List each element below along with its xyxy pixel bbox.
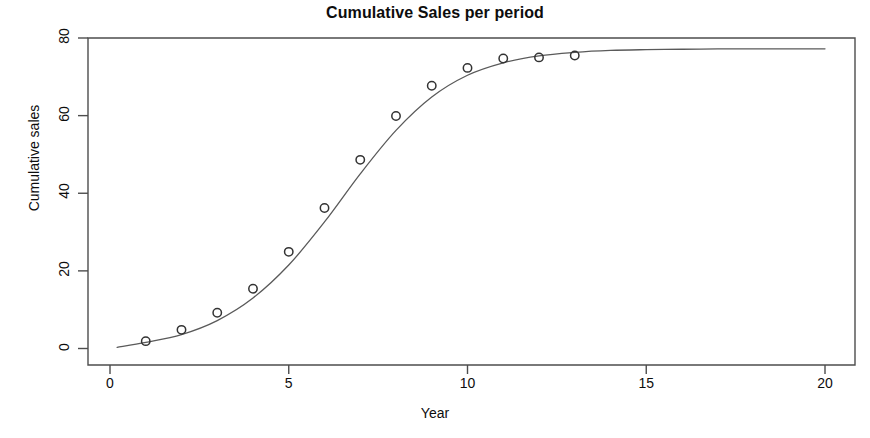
- data-point: [320, 204, 328, 212]
- x-tick-label: 20: [795, 375, 855, 391]
- fitted-curve: [117, 49, 825, 348]
- y-tick-label: 20: [44, 261, 84, 281]
- x-tick-label: 0: [80, 375, 140, 391]
- data-point: [213, 309, 221, 317]
- data-point: [499, 54, 507, 62]
- data-point: [177, 326, 185, 334]
- x-tick-label: 10: [438, 375, 498, 391]
- y-tick-label: 0: [44, 339, 84, 359]
- axis-frame: [88, 38, 855, 365]
- x-tick-label: 5: [259, 375, 319, 391]
- data-point: [356, 156, 364, 164]
- plot-area: [0, 0, 870, 438]
- data-point: [249, 285, 257, 293]
- axis-ticks: [78, 38, 825, 374]
- data-point: [535, 53, 543, 61]
- data-point: [392, 112, 400, 120]
- y-tick-label: 40: [44, 183, 84, 203]
- data-points: [142, 51, 579, 345]
- y-tick-label: 60: [44, 106, 84, 126]
- y-tick-label: 80: [44, 28, 84, 48]
- data-point: [285, 248, 293, 256]
- data-point: [463, 64, 471, 72]
- x-tick-label: 15: [616, 375, 676, 391]
- chart-figure: Cumulative Sales per period Cumulative s…: [0, 0, 870, 438]
- data-point: [428, 82, 436, 90]
